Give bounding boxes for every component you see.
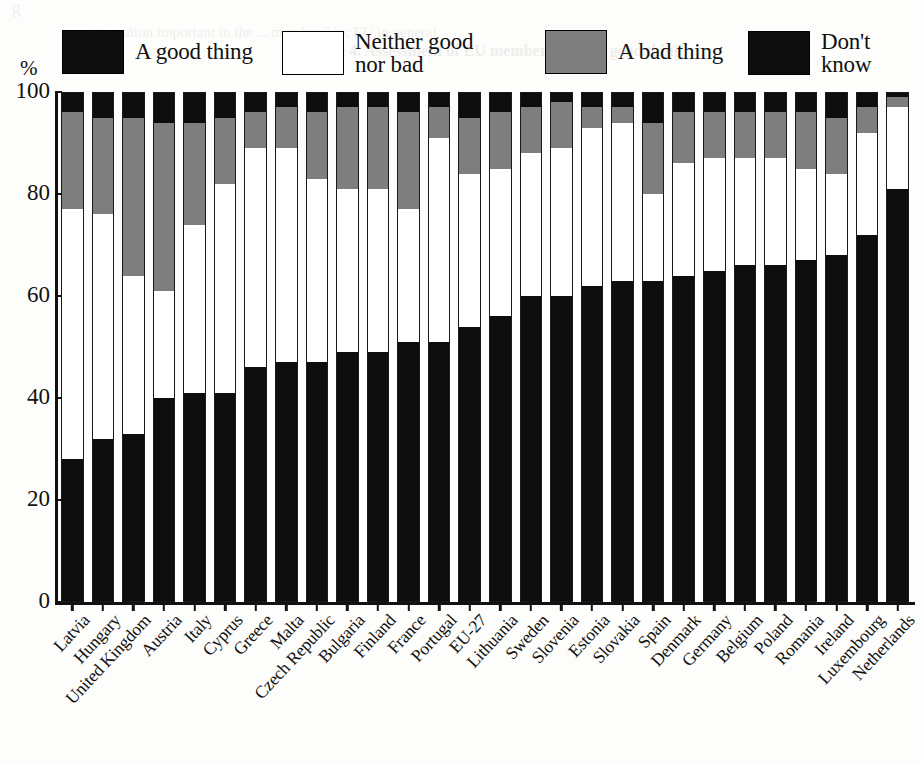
legend-label-bad: A bad thing	[618, 40, 723, 63]
y-tick-label-80: 80	[27, 180, 50, 206]
y-tick-mark-40	[55, 397, 62, 399]
bar-ireland	[825, 92, 848, 602]
segment-neither	[275, 148, 298, 362]
segment-neither	[306, 179, 329, 363]
segment-bad	[458, 118, 481, 174]
segment-bad	[703, 112, 726, 158]
legend-swatch-bad	[545, 30, 607, 74]
segment-dk	[764, 92, 787, 112]
segment-dk	[244, 92, 267, 112]
bar-germany	[703, 92, 726, 602]
chart-legend: A good thingNeither good nor badA bad th…	[0, 24, 922, 86]
bar-czech-republic	[306, 92, 329, 602]
y-tick-label-40: 40	[27, 384, 50, 410]
bar-malta	[275, 92, 298, 602]
x-axis-category-labels: LatviaHungaryUnited KingdomAustriaItalyC…	[0, 604, 922, 763]
legend-swatch-good	[62, 30, 124, 74]
legend-item-bad: A bad thing	[545, 30, 723, 74]
segment-dk	[367, 92, 390, 107]
segment-good	[856, 235, 879, 602]
segment-bad	[153, 123, 176, 291]
segment-good	[550, 296, 573, 602]
segment-good	[520, 296, 543, 602]
segment-dk	[214, 92, 237, 118]
segment-good	[825, 255, 848, 602]
segment-dk	[122, 92, 145, 118]
bar-cyprus	[214, 92, 237, 602]
bar-portugal	[428, 92, 451, 602]
legend-item-neither: Neither good nor bad	[282, 30, 473, 77]
bar-greece	[244, 92, 267, 602]
bar-lithuania	[489, 92, 512, 602]
segment-bad	[428, 107, 451, 138]
segment-dk	[856, 92, 879, 107]
legend-item-good: A good thing	[62, 30, 253, 74]
segment-bad	[825, 118, 848, 174]
segment-dk	[581, 92, 604, 107]
segment-bad	[520, 107, 543, 153]
legend-swatch-neither	[282, 31, 344, 75]
chart-plot-area	[57, 92, 913, 602]
segment-neither	[611, 123, 634, 281]
bar-spain	[642, 92, 665, 602]
segment-neither	[642, 194, 665, 281]
segment-good	[581, 286, 604, 602]
y-axis-tick-labels: 020406080100	[0, 0, 50, 700]
bar-latvia	[61, 92, 84, 602]
bar-belgium	[734, 92, 757, 602]
segment-good	[397, 342, 420, 602]
y-tick-mark-0	[55, 601, 62, 603]
bar-netherlands	[886, 92, 909, 602]
segment-bad	[367, 107, 390, 189]
segment-bad	[764, 112, 787, 158]
y-tick-mark-80	[55, 193, 62, 195]
y-tick-label-60: 60	[27, 282, 50, 308]
segment-neither	[764, 158, 787, 265]
segment-neither	[703, 158, 726, 270]
segment-neither	[825, 174, 848, 256]
segment-dk	[428, 92, 451, 107]
segment-neither	[795, 169, 818, 261]
segment-dk	[153, 92, 176, 123]
segment-bad	[275, 107, 298, 148]
segment-good	[153, 398, 176, 602]
legend-label-neither: Neither good nor bad	[355, 30, 473, 77]
segment-bad	[244, 112, 267, 148]
bar-hungary	[92, 92, 115, 602]
segment-neither	[550, 148, 573, 296]
legend-label-dk: Don't know	[821, 30, 922, 77]
segment-neither	[367, 189, 390, 352]
segment-good	[458, 327, 481, 602]
segment-bad	[611, 107, 634, 122]
legend-label-good: A good thing	[135, 40, 253, 63]
legend-swatch-dk	[748, 31, 810, 75]
segment-good	[611, 281, 634, 602]
segment-neither	[61, 209, 84, 459]
bar-united-kingdom	[122, 92, 145, 602]
segment-neither	[153, 291, 176, 398]
segment-dk	[336, 92, 359, 107]
segment-bad	[489, 112, 512, 168]
segment-good	[306, 362, 329, 602]
segment-dk	[734, 92, 757, 112]
bar-france	[397, 92, 420, 602]
y-tick-mark-100	[55, 91, 62, 93]
segment-good	[244, 367, 267, 602]
segment-good	[886, 189, 909, 602]
segment-good	[122, 434, 145, 602]
segment-good	[183, 393, 206, 602]
segment-bad	[856, 107, 879, 133]
segment-bad	[795, 112, 818, 168]
segment-dk	[825, 92, 848, 118]
segment-dk	[672, 92, 695, 112]
segment-good	[428, 342, 451, 602]
segment-neither	[581, 128, 604, 286]
y-tick-mark-60	[55, 295, 62, 297]
segment-good	[214, 393, 237, 602]
bar-estonia	[581, 92, 604, 602]
segment-dk	[306, 92, 329, 112]
segment-good	[672, 276, 695, 602]
bar-austria	[153, 92, 176, 602]
segment-neither	[122, 276, 145, 434]
segment-dk	[458, 92, 481, 118]
